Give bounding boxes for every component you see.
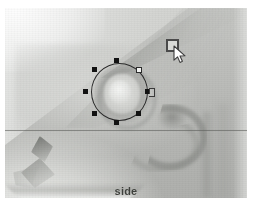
horizontal-guide-line — [5, 130, 247, 131]
screenshot-root: side — [0, 0, 259, 206]
rectangle-select-cursor — [166, 39, 192, 65]
mouse-pointer-icon — [173, 45, 187, 64]
fish-head-photo[interactable]: side — [5, 8, 247, 198]
photo-grain-texture — [5, 8, 247, 198]
view-label-caption: side — [5, 185, 247, 197]
